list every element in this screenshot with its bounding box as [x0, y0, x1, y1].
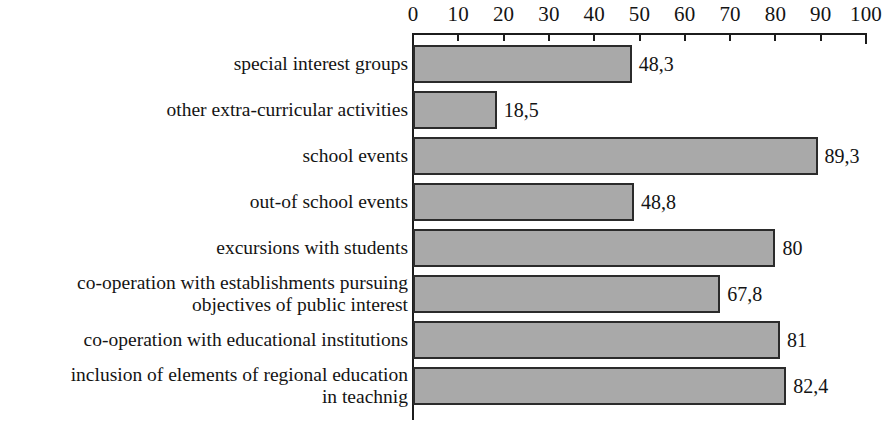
bar-row: inclusion of elements of regional educat… — [0, 363, 892, 409]
bar-value-label: 89,3 — [818, 133, 860, 179]
bar-category-label-line: in teachnig — [322, 386, 408, 408]
bar-row: co-operation with establishments pursuin… — [0, 271, 892, 317]
bar-category-label-line: co-operation with educational institutio… — [84, 329, 408, 351]
x-axis-tick-label: 100 — [850, 2, 882, 26]
bar-category-label: excursions with students — [8, 225, 408, 271]
bar[interactable] — [413, 137, 818, 175]
bar-row: other extra-curricular activities18,5 — [0, 87, 892, 133]
x-axis-tick-mark — [503, 33, 505, 41]
bar-rows: special interest groups48,3other extra-c… — [0, 41, 892, 409]
x-axis-tick-label: 70 — [719, 2, 740, 26]
x-axis-tick-label: 50 — [629, 2, 650, 26]
bar[interactable] — [413, 229, 775, 267]
bar-category-label: out-of school events — [8, 179, 408, 225]
bar-row: special interest groups48,3 — [0, 41, 892, 87]
x-axis-tick-mark — [412, 33, 414, 44]
x-axis-tick-mark — [865, 33, 867, 44]
x-axis-tick-label: 40 — [583, 2, 604, 26]
bar-category-label-line: other extra-curricular activities — [167, 99, 408, 121]
bar-category-label-line: inclusion of elements of regional educat… — [71, 364, 408, 386]
bar-category-label-line: out-of school events — [250, 191, 408, 213]
bar-category-label: inclusion of elements of regional educat… — [8, 363, 408, 409]
x-axis-tick-label: 0 — [408, 2, 419, 26]
x-axis-tick-label: 90 — [810, 2, 831, 26]
x-axis-tick-mark — [774, 33, 776, 41]
x-axis-tick-mark — [639, 33, 641, 41]
bar-category-label-line: school events — [302, 145, 408, 167]
bar-category-label-line: excursions with students — [216, 237, 408, 259]
x-axis-tick-mark — [593, 33, 595, 41]
bar[interactable] — [413, 183, 634, 221]
bar-category-label: other extra-curricular activities — [8, 87, 408, 133]
bar-row: school events89,3 — [0, 133, 892, 179]
bar-value-label: 48,3 — [632, 41, 674, 87]
bar-category-label: co-operation with establishments pursuin… — [8, 271, 408, 317]
bar-category-label: co-operation with educational institutio… — [8, 317, 408, 363]
x-axis-tick-label: 20 — [493, 2, 514, 26]
bar-category-label-line: objectives of public interest — [192, 294, 408, 316]
bar[interactable] — [413, 367, 786, 405]
bar[interactable] — [413, 45, 632, 83]
x-axis-tick-mark — [820, 33, 822, 41]
x-axis-tick-mark — [684, 33, 686, 41]
horizontal-bar-chart: 0102030405060708090100 special interest … — [0, 0, 892, 428]
bar-category-label-line: co-operation with establishments pursuin… — [77, 272, 408, 294]
bar-value-label: 81 — [780, 317, 807, 363]
x-axis-tick-label: 60 — [674, 2, 695, 26]
bar-value-label: 48,8 — [634, 179, 676, 225]
x-axis-tick-label: 80 — [765, 2, 786, 26]
bar-value-label: 67,8 — [720, 271, 762, 317]
bar[interactable] — [413, 321, 780, 359]
bar-row: excursions with students80 — [0, 225, 892, 271]
x-axis-tick-mark — [548, 33, 550, 41]
bar-row: co-operation with educational institutio… — [0, 317, 892, 363]
x-axis-tick-mark — [457, 33, 459, 41]
bar[interactable] — [413, 91, 497, 129]
bar-value-label: 82,4 — [786, 363, 828, 409]
x-axis-tick-labels: 0102030405060708090100 — [413, 2, 866, 28]
bar-value-label: 18,5 — [497, 87, 539, 133]
x-axis-tick-label: 30 — [538, 2, 559, 26]
bar-category-label-line: special interest groups — [234, 53, 408, 75]
bar[interactable] — [413, 275, 720, 313]
bar-row: out-of school events48,8 — [0, 179, 892, 225]
x-axis-tick-mark — [729, 33, 731, 41]
bar-category-label: special interest groups — [8, 41, 408, 87]
x-axis-tick-label: 10 — [448, 2, 469, 26]
bar-value-label: 80 — [775, 225, 802, 271]
bar-category-label: school events — [8, 133, 408, 179]
